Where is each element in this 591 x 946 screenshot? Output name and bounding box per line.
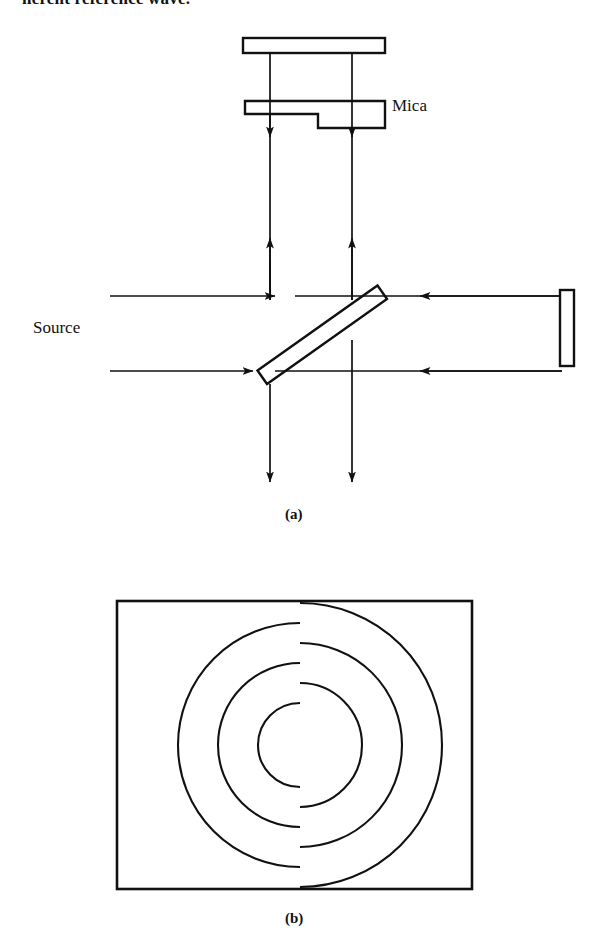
panel-b-caption: (b) — [285, 910, 303, 927]
figure-root: herent reference wave. — [0, 0, 591, 946]
fringe-frame — [117, 601, 472, 889]
panel-b-fringe-pattern — [0, 0, 591, 946]
